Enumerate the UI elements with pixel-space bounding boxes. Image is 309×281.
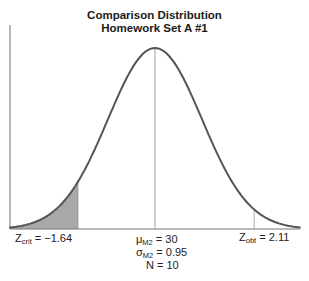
z-crit-label: Zcrit = −1.64 [15,232,72,248]
critical-region-shading [9,182,78,229]
n-label: N = 10 [146,259,179,272]
z-obt-label: Zobt = 2.11 [239,231,289,247]
